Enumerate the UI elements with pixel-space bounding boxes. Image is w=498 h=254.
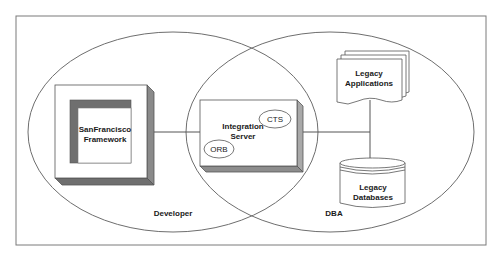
orb-label: ORB [210, 145, 227, 154]
is-box-bottom-face [200, 166, 303, 172]
is-label-line2: Server [231, 132, 256, 141]
developer-region-label: Developer [154, 209, 193, 218]
integration-server-node: Integration Server CTS ORB [200, 100, 303, 172]
legacy-databases-node: Legacy Databases [340, 158, 405, 208]
db-label-line2: Databases [353, 193, 394, 202]
sanfrancisco-framework-node: SanFrancisco Framework [55, 85, 154, 185]
sf-box-bottom-face [55, 178, 154, 185]
apps-label-line2: Applications [345, 79, 394, 88]
sf-label-line2: Framework [84, 135, 127, 144]
is-label-line1: Integration [222, 122, 263, 131]
db-label-line1: Legacy [359, 183, 387, 192]
dba-region-label: DBA [325, 209, 343, 218]
sf-label-line1: SanFrancisco [79, 125, 132, 134]
legacy-applications-node: Legacy Applications [337, 51, 409, 104]
cts-label: CTS [267, 115, 283, 124]
sf-box-right-face [147, 85, 154, 185]
db-top [340, 158, 405, 168]
apps-label-line1: Legacy [355, 69, 383, 78]
is-box-right-face [297, 100, 303, 172]
architecture-diagram: SanFrancisco Framework Integration Serve… [0, 0, 498, 254]
